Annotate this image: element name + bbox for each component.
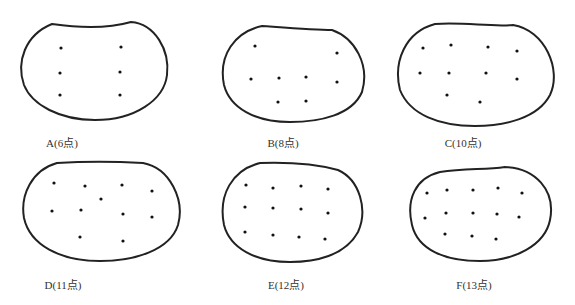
sample-point <box>304 99 307 102</box>
panel-label: E(12点) <box>268 276 304 292</box>
outline-shape <box>223 26 364 122</box>
sample-point <box>83 184 86 187</box>
sample-point <box>447 71 450 74</box>
panel-label: D(11点) <box>45 276 82 292</box>
sample-point <box>423 216 426 219</box>
outline-shape <box>410 167 551 261</box>
sample-point <box>517 215 520 218</box>
sample-point <box>445 188 448 191</box>
sample-point <box>520 191 523 194</box>
outline-shape <box>398 24 554 126</box>
sample-point <box>277 76 280 79</box>
sample-point <box>297 235 300 238</box>
sample-point <box>271 206 274 209</box>
panel-label: C(10点) <box>445 134 482 150</box>
sample-point <box>120 183 123 186</box>
sample-point <box>478 100 481 103</box>
sample-point <box>59 46 62 49</box>
sample-point <box>443 232 446 235</box>
panel-e <box>223 163 363 262</box>
panel-b <box>223 26 364 122</box>
panel-label: F(13点) <box>456 276 491 292</box>
sample-point <box>79 208 82 211</box>
sample-point <box>271 233 274 236</box>
panel-f <box>410 167 551 261</box>
sample-point <box>323 237 326 240</box>
sample-point <box>444 211 447 214</box>
sample-point <box>271 186 274 189</box>
sample-point <box>326 211 329 214</box>
sample-point <box>58 93 61 96</box>
sample-point <box>150 189 153 192</box>
sample-point <box>276 100 279 103</box>
sample-point <box>78 235 81 238</box>
sample-point <box>253 44 256 47</box>
sample-point <box>515 49 518 52</box>
panel-label: B(8点) <box>267 134 298 150</box>
sample-point <box>50 209 53 212</box>
sample-point <box>449 43 452 46</box>
sample-point <box>249 77 252 80</box>
sample-point <box>471 188 474 191</box>
sample-point <box>118 93 121 96</box>
sample-point <box>445 93 448 96</box>
sample-point <box>299 184 302 187</box>
sample-point <box>484 71 487 74</box>
sample-point <box>121 239 124 242</box>
sample-point <box>121 212 124 215</box>
sample-point <box>299 207 302 210</box>
sample-point <box>496 186 499 189</box>
sample-point <box>335 51 338 54</box>
sample-point <box>515 77 518 80</box>
sample-point <box>494 237 497 240</box>
sample-point <box>304 75 307 78</box>
sample-point <box>495 212 498 215</box>
panel-c <box>398 24 554 126</box>
sample-point <box>421 46 424 49</box>
sample-point <box>471 211 474 214</box>
diagram-canvas <box>0 0 575 305</box>
sample-point <box>470 234 473 237</box>
sample-point <box>118 70 121 73</box>
sample-point <box>52 181 55 184</box>
sample-point <box>418 71 421 74</box>
panel-d <box>23 162 179 261</box>
sample-point <box>425 191 428 194</box>
sample-point <box>150 215 153 218</box>
sample-point <box>243 230 246 233</box>
panel-label: A(6点) <box>46 134 78 150</box>
panel-a <box>21 22 167 120</box>
outline-shape <box>21 22 167 120</box>
sample-point <box>335 80 338 83</box>
sample-point <box>119 45 122 48</box>
sample-point <box>58 71 61 74</box>
sample-point <box>243 205 246 208</box>
sample-point <box>486 45 489 48</box>
sample-point <box>244 183 247 186</box>
sample-point <box>99 197 102 200</box>
outline-shape <box>23 162 179 261</box>
outline-shape <box>223 163 363 262</box>
sample-point <box>326 187 329 190</box>
